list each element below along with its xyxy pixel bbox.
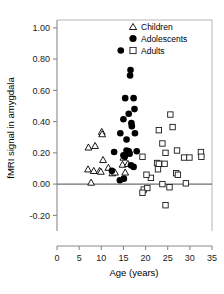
y-tick-label: 0.40: [32, 117, 50, 127]
data-point-adult: [174, 148, 179, 153]
open-square-icon: [130, 47, 136, 53]
data-point-adult: [144, 172, 149, 177]
legend-label-adults: Adults: [141, 46, 165, 56]
data-point-adolescent: [123, 136, 130, 143]
data-point-adult: [170, 124, 175, 129]
data-point-child: [100, 156, 107, 162]
data-point-adult: [140, 190, 145, 195]
data-point-adult: [199, 154, 204, 159]
data-point-adult: [162, 161, 167, 166]
x-tick-label: 20: [141, 253, 151, 263]
y-tick-label: 0.20: [32, 148, 50, 158]
data-point-adolescent: [121, 153, 128, 160]
data-point-adolescent: [121, 175, 128, 182]
data-point-adult: [163, 203, 168, 208]
series-adults-markers: [140, 112, 204, 208]
y-axis-title: fMRI signal in amygdala: [5, 77, 16, 179]
data-point-adolescent: [125, 110, 132, 117]
data-point-adult: [155, 167, 160, 172]
legend: Children Adolescents Adults: [129, 22, 187, 56]
data-point-adolescent: [117, 47, 124, 54]
x-tick-label: 0: [54, 253, 59, 263]
y-tick-label: 0.60: [32, 86, 50, 96]
data-point-adult: [160, 141, 165, 146]
data-point-adult: [175, 172, 180, 177]
x-tick-label: 30: [185, 253, 195, 263]
x-axis-ticks: 05101520253035: [54, 246, 217, 263]
data-point-adolescent: [130, 95, 137, 102]
data-point-adolescent: [131, 106, 138, 113]
data-point-adolescent: [117, 130, 124, 137]
data-point-child: [85, 144, 92, 150]
data-point-adult: [156, 127, 161, 132]
data-point-adolescent: [120, 116, 127, 123]
data-point-child: [122, 169, 129, 175]
x-tick-label: 5: [77, 253, 82, 263]
scatter-plot-canvas: -0.200.000.200.400.600.801.00 0510152025…: [0, 0, 224, 294]
data-point-adolescent: [129, 123, 136, 130]
data-point-adolescent: [133, 148, 140, 155]
x-axis-title: Age (years): [109, 267, 158, 278]
legend-entry-children: Children: [129, 22, 173, 32]
data-point-adult: [160, 181, 165, 186]
y-tick-label: 0.00: [32, 179, 50, 189]
x-axis: 05101520253035: [54, 246, 217, 263]
data-point-adolescent: [127, 72, 134, 79]
y-tick-label: -0.20: [29, 211, 50, 221]
data-point-adult: [163, 150, 168, 155]
x-tick-label: 15: [118, 253, 128, 263]
legend-label-adolescents: Adolescents: [141, 34, 187, 44]
data-point-child: [92, 142, 99, 148]
data-point-adult: [181, 155, 186, 160]
open-triangle-icon: [129, 24, 136, 30]
data-point-adolescent: [111, 149, 118, 156]
data-point-child: [88, 179, 95, 185]
data-point-adult: [140, 154, 145, 159]
legend-entry-adults: Adults: [130, 46, 165, 56]
data-point-adolescent: [122, 95, 129, 102]
data-point-adult: [187, 155, 192, 160]
data-point-adult: [168, 112, 173, 117]
y-axis: -0.200.000.200.400.600.801.00: [29, 20, 57, 231]
data-point-child: [85, 166, 92, 172]
y-tick-label: 1.00: [32, 23, 50, 33]
x-tick-label: 25: [163, 253, 173, 263]
y-tick-label: 0.80: [32, 54, 50, 64]
series-adolescents-markers: [109, 47, 140, 183]
data-point-adolescent: [132, 130, 139, 137]
y-axis-ticks: -0.200.000.200.400.600.801.00: [29, 23, 57, 221]
x-tick-label: 10: [96, 253, 106, 263]
legend-label-children: Children: [141, 22, 173, 32]
data-point-adult: [183, 181, 188, 186]
filled-circle-icon: [129, 35, 136, 42]
data-point-adolescent: [109, 168, 116, 175]
data-point-adolescent: [130, 164, 137, 171]
data-point-adult: [156, 161, 161, 166]
legend-entry-adolescents: Adolescents: [129, 34, 187, 44]
data-point-adult: [167, 185, 172, 190]
x-tick-label: 35: [207, 253, 217, 263]
fmri-scatter-figure: -0.200.000.200.400.600.801.00 0510152025…: [0, 0, 224, 294]
